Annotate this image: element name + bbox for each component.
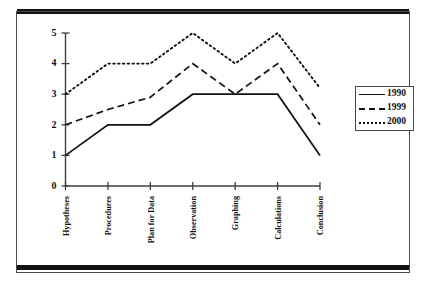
legend-item-2000: 2000 (356, 115, 413, 129)
chart-page: 012345 HypothesesProceduresPlan for Data… (0, 0, 428, 286)
series-paths (66, 33, 321, 155)
x-tick-labels: HypothesesProceduresPlan for DataObserva… (62, 195, 326, 243)
legend: 1990 1999 2000 (355, 86, 414, 131)
plot-area: 012345 HypothesesProceduresPlan for Data… (0, 0, 428, 286)
y-tick-label: 3 (52, 88, 57, 99)
x-tick-label: Observation (189, 196, 198, 240)
y-tick-label: 0 (52, 180, 57, 191)
x-tick-label: Plan for Data (147, 196, 156, 243)
dashed-line-icon (359, 103, 385, 113)
x-tick-label: Calculations (274, 196, 283, 240)
legend-item-1999: 1999 (356, 101, 413, 115)
legend-label: 2000 (385, 117, 406, 127)
x-tick-label: Graphing (231, 195, 240, 230)
x-tick-label: Hypotheses (62, 196, 71, 236)
series-line-1990 (66, 94, 321, 155)
line-chart: 012345 HypothesesProceduresPlan for Data… (0, 0, 428, 286)
legend-label: 1999 (385, 103, 406, 113)
legend-label: 1990 (385, 89, 406, 99)
y-tick-label: 4 (52, 57, 57, 68)
x-tick-label: Conclusion (316, 196, 325, 236)
y-tick-label: 5 (52, 27, 57, 38)
solid-line-icon (359, 89, 385, 99)
y-tick-labels: 012345 (52, 27, 57, 191)
y-tick-label: 1 (52, 149, 57, 160)
dotted-line-icon (359, 117, 385, 127)
legend-item-1990: 1990 (356, 87, 413, 101)
x-tick-label: Procedures (104, 196, 113, 235)
y-tick-label: 2 (52, 119, 57, 130)
